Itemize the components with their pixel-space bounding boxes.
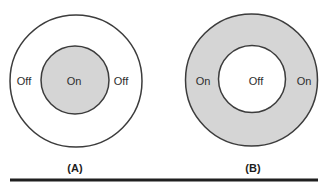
diagram-a: Off On Off (A) [10,15,142,174]
bottom-rule [10,179,318,182]
diagram-a-on-label: On [67,75,82,87]
diagram-a-left-off-label: Off [17,75,32,87]
diagram-a-caption: (A) [67,162,83,174]
diagram-b-caption: (B) [245,162,261,174]
diagram-a-right-off-label: Off [114,75,129,87]
figure-canvas: Off On Off (A) On Off On (B) [0,0,328,190]
diagram-b-off-label: Off [249,75,264,87]
diagram-b: On Off On (B) [186,14,318,174]
diagram-b-left-on-label: On [196,75,211,87]
diagram-b-right-on-label: On [297,75,312,87]
figure-container: Off On Off (A) On Off On (B) [0,0,328,190]
